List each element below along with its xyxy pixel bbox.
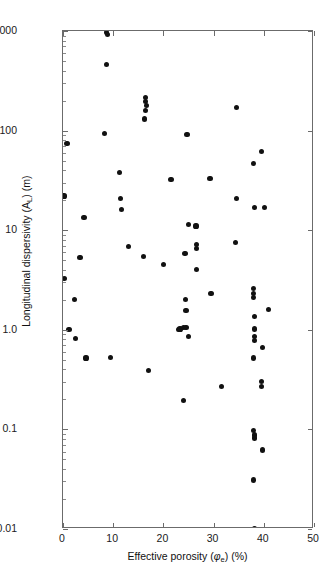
data-point <box>194 246 199 251</box>
y-axis-minor-tick <box>63 61 66 62</box>
y-axis-minor-tick <box>63 434 66 435</box>
y-axis-minor-tick <box>63 140 66 141</box>
data-point <box>252 326 257 331</box>
y-axis-minor-tick <box>63 334 66 335</box>
y-axis-minor-tick <box>63 235 66 236</box>
y-axis-minor-tick <box>63 53 66 54</box>
data-point <box>81 215 86 220</box>
y-axis-tick-label: 0.01 <box>0 523 17 534</box>
y-axis-tick-label: 100 <box>0 124 17 135</box>
y-axis-tick-label: 0.1 <box>2 423 17 434</box>
data-point <box>252 314 257 319</box>
x-axis-tick-top <box>314 31 315 36</box>
y-axis-minor-tick <box>63 146 66 147</box>
data-points-layer <box>63 31 312 527</box>
data-point <box>252 205 257 210</box>
x-axis-tick-label: 30 <box>207 533 219 544</box>
data-point <box>142 116 147 121</box>
data-point <box>126 244 131 249</box>
data-point <box>251 295 256 300</box>
data-point <box>108 355 113 360</box>
x-axis-tick-label: 20 <box>157 533 169 544</box>
y-axis-minor-tick <box>63 445 66 446</box>
y-axis-minor-tick <box>63 360 66 361</box>
data-point <box>77 255 82 260</box>
data-point <box>252 338 257 343</box>
y-axis-minor-tick <box>63 71 66 72</box>
y-axis-minor-tick <box>63 252 66 253</box>
data-point <box>234 105 239 110</box>
y-axis-tick <box>63 330 68 331</box>
data-point <box>63 276 67 281</box>
data-point <box>118 196 123 201</box>
y-axis-tick-label: 1000 <box>0 25 17 36</box>
y-axis-minor-tick <box>63 46 66 47</box>
x-axis-tick-label: 40 <box>257 533 269 544</box>
y-axis-minor-tick <box>63 499 66 500</box>
data-point <box>146 368 151 373</box>
data-point <box>63 193 67 198</box>
data-point <box>251 161 256 166</box>
y-axis-minor-tick <box>63 101 66 102</box>
data-point <box>219 384 224 389</box>
data-point <box>181 398 186 403</box>
data-point <box>260 447 265 452</box>
y-axis-minor-tick <box>63 246 66 247</box>
y-axis-minor-tick <box>63 369 66 370</box>
y-axis-minor-tick <box>63 439 66 440</box>
plot-frame <box>62 30 313 528</box>
data-point <box>105 32 110 37</box>
y-axis-minor-tick <box>63 452 66 453</box>
data-point <box>260 345 265 350</box>
data-point <box>194 267 199 272</box>
x-axis-tick <box>314 523 315 528</box>
x-axis-tick <box>214 523 215 528</box>
data-point <box>186 222 191 227</box>
x-axis-tick <box>264 523 265 528</box>
x-axis-tick-top <box>163 31 164 36</box>
y-axis-tick-right <box>308 131 313 132</box>
y-axis-minor-tick <box>63 339 66 340</box>
x-axis-tick <box>163 523 164 528</box>
y-axis-tick-right <box>308 31 313 32</box>
y-axis-tick-right <box>308 529 313 530</box>
data-point <box>183 325 188 330</box>
data-point <box>266 307 271 312</box>
data-point <box>251 477 256 482</box>
y-axis-minor-tick <box>63 459 66 460</box>
x-axis-tick-label: 0 <box>59 533 65 544</box>
y-axis-minor-tick <box>63 135 66 136</box>
y-axis-tick <box>63 529 68 530</box>
y-axis-tick-label: 10 <box>5 224 17 235</box>
y-axis-tick <box>63 131 68 132</box>
data-point <box>252 435 257 440</box>
y-axis-minor-tick <box>63 83 66 84</box>
x-axis-tick-label: 10 <box>106 533 118 544</box>
y-axis-minor-tick <box>63 41 66 42</box>
data-point <box>117 170 122 175</box>
y-axis-minor-tick <box>63 352 66 353</box>
x-axis-tick-top <box>63 31 64 36</box>
data-point <box>119 207 124 212</box>
x-axis-tick-top <box>214 31 215 36</box>
y-axis-minor-tick <box>63 240 66 241</box>
data-point <box>168 177 173 182</box>
y-axis-minor-tick <box>63 170 66 171</box>
data-point <box>141 254 146 259</box>
y-axis-minor-tick <box>63 161 66 162</box>
y-axis-tick-right <box>308 230 313 231</box>
data-point <box>259 384 264 389</box>
y-axis-minor-tick <box>63 260 66 261</box>
data-point <box>262 205 267 210</box>
data-point <box>143 108 148 113</box>
data-point <box>251 355 256 360</box>
data-point <box>207 176 212 181</box>
y-axis-tick-label: 1.0 <box>2 324 17 335</box>
data-point <box>233 240 238 245</box>
x-axis-tick <box>113 523 114 528</box>
y-axis-tick-right <box>308 330 313 331</box>
data-point <box>104 62 109 67</box>
data-point <box>182 251 187 256</box>
y-axis-minor-tick <box>63 183 66 184</box>
data-point <box>208 291 213 296</box>
